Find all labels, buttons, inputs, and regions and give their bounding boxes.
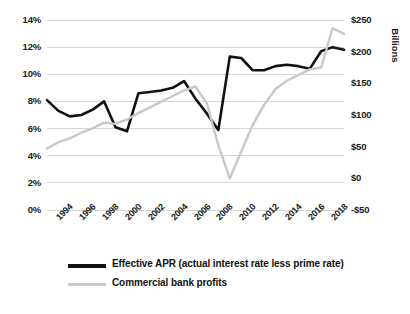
y-axis-left-tick: 14% (23, 14, 41, 25)
series-line-effective-apr (47, 47, 344, 131)
legend-label: Commercial bank profits (112, 277, 227, 288)
y-axis-right-tick: -$50 (351, 204, 369, 215)
y-axis-left-tick: 6% (28, 123, 41, 134)
y-axis-right-tick: $50 (351, 141, 366, 152)
y-axis-right-tick: $150 (351, 77, 371, 88)
y-axis-left-tick: 12% (23, 41, 41, 52)
legend-label: Effective APR (actual interest rate less… (112, 258, 344, 269)
y-axis-right-tick: $250 (351, 14, 371, 25)
chart-container: 0%2%4%6%8%10%12%14% -$50$0$50$100$150$20… (0, 0, 410, 314)
y-axis-left-tick: 8% (28, 95, 41, 106)
y-axis-right-title: Billions (390, 28, 401, 62)
gridlines-group (47, 20, 344, 210)
y-axis-left-tick: 2% (28, 177, 41, 188)
y-axis-right-tick: $100 (351, 109, 371, 120)
y-axis-right-tick: $200 (351, 46, 371, 57)
legend-swatch-icon (68, 264, 106, 268)
y-axis-right-tick: $0 (351, 172, 361, 183)
y-axis-left-tick: 10% (23, 68, 41, 79)
y-axis-left-tick: 4% (28, 150, 41, 161)
legend-swatch-icon (68, 283, 106, 286)
chart-legend: Effective APR (actual interest rate less… (0, 258, 410, 308)
y-axis-left-tick: 0% (28, 204, 41, 215)
